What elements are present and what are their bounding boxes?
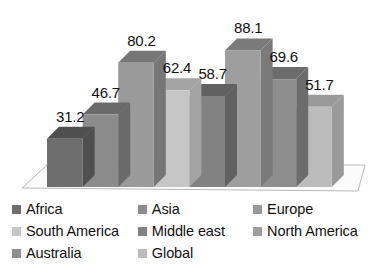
chart-svg (0, 0, 392, 200)
legend-swatch-icon (253, 205, 262, 214)
data-label: 88.1 (234, 19, 262, 36)
data-label: 69.6 (270, 48, 298, 65)
legend-swatch-icon (12, 227, 21, 236)
legend-item-europe[interactable]: Europe (253, 198, 386, 220)
legend-item-south-america[interactable]: South America (12, 220, 138, 242)
legend-swatch-icon (253, 227, 262, 236)
bar-front-face (47, 139, 83, 187)
data-label: 46.7 (92, 84, 120, 101)
legend-swatch-icon (138, 205, 147, 214)
bar-side-face (118, 103, 130, 187)
legend-swatch-icon (138, 227, 147, 236)
legend-label: Africa (26, 202, 62, 217)
legend-item-africa[interactable]: Africa (12, 198, 138, 220)
bar-side-face (225, 84, 237, 187)
data-label: 58.7 (198, 65, 226, 82)
legend-item-north-america[interactable]: North America (253, 220, 386, 242)
legend-item-australia[interactable]: Australia (12, 242, 138, 264)
bar-chart: 51.769.688.158.762.480.246.731.2 Africa … (0, 0, 392, 272)
legend-row: South America Middle east North America (12, 220, 386, 242)
legend-item-spacer (253, 242, 386, 264)
legend-row: Africa Asia Europe (12, 198, 386, 220)
plot-area: 51.769.688.158.762.480.246.731.2 (0, 0, 392, 200)
bar-side-face (189, 78, 201, 187)
legend-label: North America (267, 224, 358, 239)
chart-legend: Africa Asia Europe South America Middle … (12, 198, 386, 268)
legend-label: Asia (152, 202, 180, 217)
data-label: 62.4 (163, 59, 191, 76)
legend-swatch-icon (12, 249, 21, 258)
bar-africa[interactable] (47, 127, 95, 187)
legend-item-middle-east[interactable]: Middle east (138, 220, 253, 242)
data-label: 51.7 (305, 76, 333, 93)
legend-label: Australia (26, 246, 82, 261)
legend-label: South America (26, 224, 119, 239)
bars-group (47, 38, 344, 187)
data-label: 80.2 (127, 32, 155, 49)
legend-label: Global (152, 246, 193, 261)
data-label: 31.2 (56, 108, 84, 125)
legend-swatch-icon (12, 205, 21, 214)
legend-label: Middle east (152, 224, 225, 239)
legend-label: Europe (267, 202, 313, 217)
legend-item-asia[interactable]: Asia (138, 198, 253, 220)
bar-side-face (332, 95, 344, 187)
legend-item-global[interactable]: Global (138, 242, 253, 264)
legend-swatch-icon (138, 249, 147, 258)
legend-row: Australia Global (12, 242, 386, 264)
